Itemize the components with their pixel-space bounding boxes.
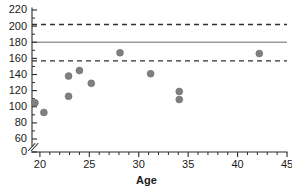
data-point-1	[40, 109, 47, 116]
x-axis-title: Age	[136, 174, 157, 186]
y-tick-label-0: 0	[21, 145, 27, 157]
x-tick-label-35: 35	[182, 158, 194, 170]
y-tick-label-220: 220	[9, 3, 27, 15]
y-tick-label-140: 140	[9, 68, 27, 80]
y-tick-label-160: 160	[9, 52, 27, 64]
y-tick-label-180: 180	[9, 36, 27, 48]
data-point-8	[176, 96, 183, 103]
reference-lines-group	[32, 25, 287, 61]
x-tick-label-40: 40	[231, 158, 243, 170]
data-point-7	[147, 70, 154, 77]
data-point-2	[65, 93, 72, 100]
data-point-5	[88, 80, 95, 87]
data-point-3	[65, 73, 72, 80]
x-tick-label-25: 25	[83, 158, 95, 170]
axis-break-icon	[29, 144, 39, 151]
data-point-4	[76, 67, 83, 74]
x-axis-ticks-group: 202530354045	[34, 152, 292, 170]
data-points-group	[31, 49, 262, 116]
data-point-0	[31, 99, 38, 106]
data-point-6	[116, 49, 123, 56]
x-tick-label-20: 20	[34, 158, 46, 170]
data-point-9	[176, 88, 183, 95]
y-tick-label-100: 100	[9, 100, 27, 112]
data-point-10	[256, 50, 263, 57]
y-tick-label-200: 200	[9, 20, 27, 32]
x-tick-label-30: 30	[133, 158, 145, 170]
y-axis-ticks-group: 06080100120140160180200220	[9, 3, 37, 157]
y-tick-label-120: 120	[9, 84, 27, 96]
y-tick-label-80: 80	[15, 116, 27, 128]
y-tick-label-60: 60	[15, 132, 27, 144]
chart-canvas: 06080100120140160180200220 202530354045 …	[0, 0, 292, 196]
x-tick-label-45: 45	[281, 158, 292, 170]
axes-group	[29, 8, 288, 152]
scatter-chart: 06080100120140160180200220 202530354045 …	[0, 0, 292, 196]
